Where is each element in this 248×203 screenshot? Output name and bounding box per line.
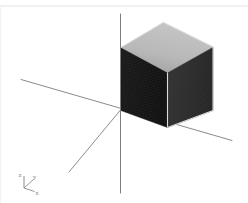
plot-viewport: z y x bbox=[0, 0, 248, 203]
axis-triad: z y x bbox=[18, 171, 39, 197]
scene-canvas: z y x bbox=[0, 0, 248, 203]
triad-x-label: x bbox=[35, 189, 39, 197]
triad-y-label: y bbox=[33, 173, 37, 181]
cube-object bbox=[121, 23, 213, 128]
triad-x-arm bbox=[24, 188, 35, 192]
x-axis-line bbox=[69, 110, 121, 172]
triad-z-label: z bbox=[18, 171, 21, 179]
triad-y-arm bbox=[24, 180, 34, 189]
